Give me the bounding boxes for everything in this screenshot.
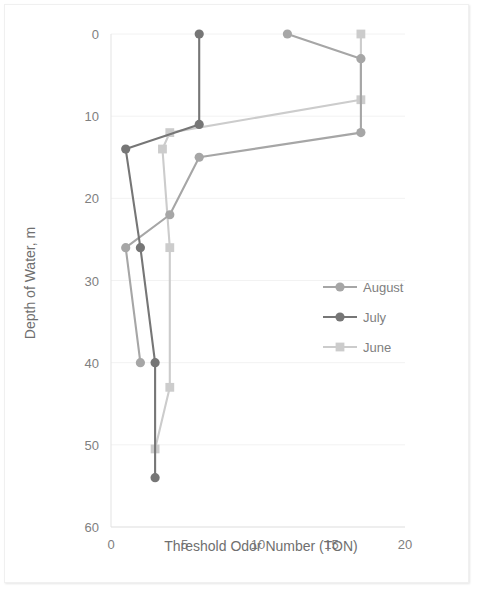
legend-label-june: June xyxy=(363,340,391,355)
y-axis-tick-labels: 0102030405060 xyxy=(85,27,99,535)
marker-july-1 xyxy=(195,120,204,129)
marker-june-0 xyxy=(357,30,366,39)
marker-august-2 xyxy=(356,128,365,137)
marker-august-5 xyxy=(121,243,130,252)
series-line-july xyxy=(126,34,200,478)
marker-july-2 xyxy=(121,144,130,153)
y-tick-label-0: 0 xyxy=(92,27,99,42)
y-tick-label-30: 30 xyxy=(85,274,99,289)
y-tick-label-10: 10 xyxy=(85,109,99,124)
legend-marker-august xyxy=(335,282,344,291)
marker-august-3 xyxy=(195,153,204,162)
legend-marker-june xyxy=(336,343,345,352)
y-tick-label-20: 20 xyxy=(85,191,99,206)
x-axis-title: Threshold Odor Number (TON) xyxy=(164,538,357,554)
legend-item-june[interactable]: June xyxy=(323,340,391,355)
marker-august-4 xyxy=(165,210,174,219)
legend-item-july[interactable]: July xyxy=(323,310,387,325)
y-axis-title: Depth of Water, m xyxy=(22,227,38,339)
y-tick-label-40: 40 xyxy=(85,356,99,371)
x-tick-label-20: 20 xyxy=(398,537,412,552)
marker-august-0 xyxy=(283,29,292,38)
marker-july-4 xyxy=(151,358,160,367)
legend-label-july: July xyxy=(363,310,387,325)
marker-july-0 xyxy=(195,29,204,38)
marker-june-4 xyxy=(165,243,174,252)
legend-label-august: August xyxy=(363,280,404,295)
chart-frame: 0102030405060 05101520 AugustJulyJune Th… xyxy=(4,4,469,583)
marker-july-3 xyxy=(136,243,145,252)
y-tick-label-50: 50 xyxy=(85,438,99,453)
marker-july-5 xyxy=(151,473,160,482)
legend-marker-july xyxy=(335,312,344,321)
odor-depth-chart: 0102030405060 05101520 AugustJulyJune Th… xyxy=(5,5,470,584)
legend[interactable]: AugustJulyJune xyxy=(323,280,404,355)
marker-august-6 xyxy=(136,358,145,367)
marker-june-5 xyxy=(165,383,174,392)
legend-item-august[interactable]: August xyxy=(323,280,404,295)
marker-june-3 xyxy=(158,145,167,154)
series-june xyxy=(151,30,366,454)
series-group xyxy=(121,29,365,482)
series-line-june xyxy=(155,34,361,449)
marker-august-1 xyxy=(356,54,365,63)
y-tick-label-60: 60 xyxy=(85,520,99,535)
x-tick-label-0: 0 xyxy=(107,537,114,552)
